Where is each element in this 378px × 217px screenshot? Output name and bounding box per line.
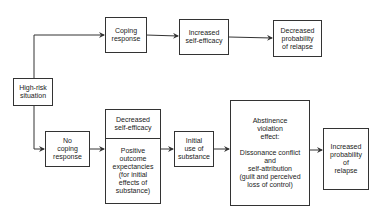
node-label: Coping response bbox=[112, 27, 141, 43]
arrow-highrisk-to-coping bbox=[34, 35, 104, 78]
node-label: Initial use of substance bbox=[178, 137, 210, 161]
node-increased-self-efficacy: Increased self-efficacy bbox=[179, 19, 229, 55]
node-high-risk-situation: High-risk situation bbox=[13, 78, 53, 106]
node-label: High-risk situation bbox=[19, 84, 47, 100]
node-label: No coping response bbox=[53, 137, 82, 161]
node-no-coping-response: No coping response bbox=[45, 131, 90, 167]
node-abstinence-violation-effect: Abstinence violation effect: Dissonance … bbox=[230, 100, 310, 206]
node-increased-probability-of-relapse: Increased probability of relapse bbox=[323, 128, 369, 190]
node-initial-use-of-substance: Initial use of substance bbox=[174, 131, 214, 167]
arrow-selfefficacy-to-decprob bbox=[229, 37, 272, 38]
arrow-highrisk-to-nocoping bbox=[34, 106, 44, 149]
node-label: Decreased probability of relapse bbox=[281, 27, 315, 51]
node-label: Positive outcome expectancies (for initi… bbox=[113, 147, 154, 195]
node-label: Increased probability of relapse bbox=[330, 143, 362, 175]
node-decreased-probability-of-relapse: Decreased probability of relapse bbox=[273, 20, 322, 57]
node-label: Increased self-efficacy bbox=[186, 29, 223, 45]
node-coping-response: Coping response bbox=[105, 17, 147, 53]
node-label: Decreased self-efficacy bbox=[115, 116, 152, 132]
node-detail: Dissonance conflict and self-attribution… bbox=[239, 149, 300, 189]
arrow-coping-to-selfefficacy bbox=[146, 35, 178, 36]
section-decreased-self-efficacy: Decreased self-efficacy bbox=[106, 110, 160, 139]
node-title: Abstinence violation effect: bbox=[253, 117, 288, 141]
node-decreased-self-efficacy-positive-expectancies: Decreased self-efficacy Positive outcome… bbox=[105, 109, 161, 204]
section-positive-outcome-expectancies: Positive outcome expectancies (for initi… bbox=[106, 139, 160, 203]
